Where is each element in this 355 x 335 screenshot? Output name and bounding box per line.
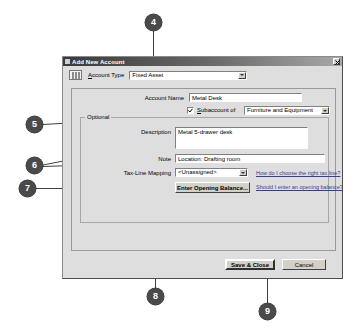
add-new-account-dialog: Add New Account Account Type Fixed Asset… — [62, 56, 343, 279]
optional-group: Optional Description Metal 5-drawer desk… — [80, 117, 329, 223]
account-name-input[interactable]: Metal Desk — [189, 93, 302, 102]
dialog-titlebar[interactable]: Add New Account — [63, 57, 342, 66]
note-input[interactable]: Location: Drafting room — [175, 154, 325, 163]
callout-marker-9: 9 — [259, 303, 276, 320]
callout-marker-7: 7 — [19, 180, 36, 197]
dialog-button-bar: Save & Close Cancel — [63, 256, 342, 280]
tax-line-mapping-select[interactable]: <Unassigned> — [175, 168, 248, 177]
account-name-label: Account Name — [122, 95, 184, 101]
account-type-select[interactable]: Fixed Asset — [129, 71, 247, 80]
chevron-down-icon[interactable] — [238, 72, 246, 79]
description-textarea[interactable]: Metal 5-drawer desk — [175, 127, 308, 149]
system-menu-icon[interactable] — [65, 59, 70, 64]
callout-marker-6: 6 — [26, 157, 43, 174]
account-type-row: Account Type Fixed Asset — [63, 66, 342, 83]
save-and-close-button[interactable]: Save & Close — [225, 259, 275, 270]
subaccount-parent-value: Furniture and Equipment — [245, 107, 321, 114]
tax-line-help-link[interactable]: How do I choose the right tax line? — [256, 170, 340, 176]
account-type-value: Fixed Asset — [130, 72, 238, 79]
chevron-down-icon[interactable] — [321, 107, 329, 114]
enter-opening-balance-button[interactable]: Enter Opening Balance... — [175, 182, 250, 193]
callout-marker-4: 4 — [145, 14, 162, 31]
opening-balance-help-link[interactable]: Should I enter an opening balance? — [256, 184, 343, 190]
tax-line-mapping-value: <Unassigned> — [176, 169, 239, 176]
description-label: Description — [111, 129, 171, 135]
callout-marker-8: 8 — [147, 288, 164, 305]
cancel-button[interactable]: Cancel — [282, 259, 326, 270]
subaccount-parent-select[interactable]: Furniture and Equipment — [244, 106, 330, 115]
account-type-label: Account Type — [88, 72, 124, 78]
callout-marker-5: 5 — [26, 116, 43, 133]
account-ledger-icon — [69, 70, 82, 80]
optional-group-legend: Optional — [85, 114, 111, 120]
account-form-panel: Account Name Metal Desk Subaccount of Fu… — [71, 88, 336, 251]
subaccount-label: Subaccount of — [197, 107, 235, 113]
dialog-title: Add New Account — [72, 59, 333, 65]
note-label: Note — [131, 156, 171, 162]
tax-line-mapping-label: Tax-Line Mapping — [101, 170, 171, 176]
subaccount-checkbox[interactable] — [187, 107, 194, 114]
account-type-label-text: ccount Type — [92, 72, 124, 78]
chevron-down-icon[interactable] — [239, 169, 247, 176]
close-icon[interactable] — [333, 58, 340, 65]
